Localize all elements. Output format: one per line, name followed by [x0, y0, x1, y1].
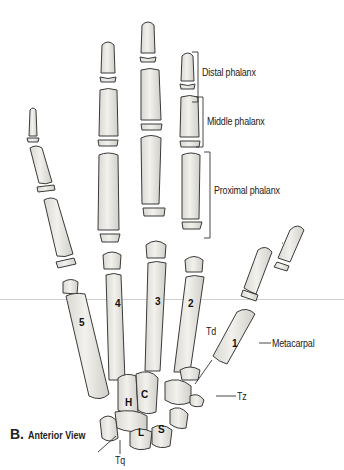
finger-2-bones	[174, 53, 204, 372]
metacarpal-number-3: 3	[155, 296, 161, 307]
finger-5-bones	[27, 108, 109, 399]
figure-title-text: Anterior View	[28, 429, 85, 441]
finger-4-bones	[98, 42, 125, 380]
label-proximal-phalanx: Proximal phalanx	[214, 184, 280, 196]
label-middle-phalanx: Middle phalanx	[207, 115, 265, 127]
metacarpal-number-4: 4	[115, 298, 121, 309]
hand-bones-illustration	[0, 0, 344, 470]
label-tz: Tz	[237, 390, 247, 402]
label-metacarpal: Metacarpal	[272, 337, 314, 349]
carpal-label-hamate: H	[125, 397, 132, 408]
carpal-label-capitate: C	[141, 389, 148, 400]
label-tq: Tq	[115, 454, 125, 466]
metacarpal-number-1: 1	[232, 338, 238, 349]
label-td: Td	[206, 325, 216, 337]
carpal-label-scaphoid: S	[158, 424, 165, 435]
metacarpal-number-5: 5	[79, 317, 85, 328]
figure-title-letter: B.	[10, 426, 24, 442]
figure-title: B. Anterior View	[10, 425, 96, 443]
label-distal-phalanx: Distal phalanx	[202, 66, 256, 78]
finger-3-bones	[140, 22, 166, 371]
metacarpal-number-2: 2	[188, 298, 194, 309]
carpal-label-lunate: L	[138, 427, 144, 438]
